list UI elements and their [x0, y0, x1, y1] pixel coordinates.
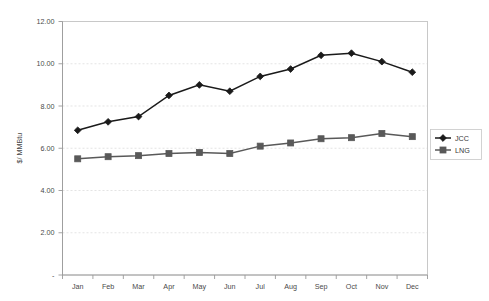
data-point-lng — [257, 143, 263, 149]
x-tick-label: May — [193, 282, 207, 291]
legend-marker-lng — [440, 147, 446, 153]
data-point-lng — [379, 130, 385, 136]
line-chart: -2.004.006.008.0010.0012.00 JanFebMarApr… — [0, 0, 489, 301]
x-tick-label: Jun — [224, 282, 236, 291]
y-tick-label: 4.00 — [41, 186, 55, 195]
data-point-lng — [318, 136, 324, 142]
y-tick-label: 6.00 — [41, 144, 55, 153]
x-tick-label: Feb — [102, 282, 114, 291]
data-point-lng — [348, 135, 354, 141]
y-tick-label: 8.00 — [41, 102, 55, 111]
data-point-lng — [136, 153, 142, 159]
data-point-lng — [288, 140, 294, 146]
data-point-lng — [105, 154, 111, 160]
data-point-lng — [196, 149, 202, 155]
chart-legend[interactable]: JCCLNG — [431, 130, 482, 160]
chart-canvas: -2.004.006.008.0010.0012.00 JanFebMarApr… — [0, 0, 489, 301]
data-point-lng — [166, 151, 172, 157]
x-tick-label: Sep — [315, 282, 328, 291]
x-tick-label: Nov — [375, 282, 388, 291]
x-tick-label: Mar — [132, 282, 145, 291]
data-point-lng — [409, 134, 415, 140]
x-tick-label: Oct — [346, 282, 357, 291]
data-point-lng — [75, 156, 81, 162]
x-tick-label: Aug — [284, 282, 297, 291]
x-tick-label: Jan — [72, 282, 84, 291]
data-point-lng — [227, 151, 233, 157]
y-tick-label: 10.00 — [37, 59, 55, 68]
y-tick-label: 12.00 — [37, 17, 55, 26]
legend-label-jcc[interactable]: JCC — [455, 134, 469, 143]
x-tick-label: Dec — [406, 282, 419, 291]
x-tick-label: Apr — [163, 282, 175, 291]
y-tick-label: 2.00 — [41, 228, 55, 237]
legend-label-lng[interactable]: LNG — [455, 146, 470, 155]
y-axis-title: $/ MMBtu — [15, 133, 24, 164]
x-tick-label: Jul — [256, 282, 266, 291]
